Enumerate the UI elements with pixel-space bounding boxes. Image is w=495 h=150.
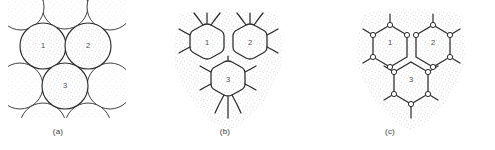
vertex-node-icon xyxy=(413,32,418,37)
vertex-node-icon xyxy=(430,22,435,27)
cell-number-a3: 3 xyxy=(63,81,67,90)
cell-number-c3: 3 xyxy=(409,75,413,84)
panel-label-b: (b) xyxy=(205,127,245,136)
cell-number-b1: 1 xyxy=(205,38,209,47)
vertex-node-icon xyxy=(391,91,396,96)
cell-number-b3: 3 xyxy=(226,75,230,84)
cell-number-c1: 1 xyxy=(388,38,392,47)
vertex-node-icon xyxy=(387,64,392,69)
vertex-node-icon xyxy=(370,54,375,59)
vertex-node-icon xyxy=(391,69,396,74)
vertex-node-icon xyxy=(408,101,413,106)
cell-number-b2: 2 xyxy=(248,38,252,47)
cell-number-a2: 2 xyxy=(86,41,90,50)
vertex-node-icon xyxy=(387,22,392,27)
vertex-node-icon xyxy=(447,54,452,59)
panel-b: 1 2 3 xyxy=(174,9,282,131)
cell-number-a1: 1 xyxy=(41,41,45,50)
vertex-node-icon xyxy=(370,32,375,37)
vertex-node-icon xyxy=(430,64,435,69)
vertex-node-icon xyxy=(404,32,409,37)
panel-label-a: (a) xyxy=(38,127,78,136)
vertex-node-icon xyxy=(425,91,430,96)
panel-c: 1 2 3 xyxy=(357,9,465,131)
cell-number-c2: 2 xyxy=(431,38,435,47)
vertex-node-icon xyxy=(425,69,430,74)
panel-label-c: (c) xyxy=(370,127,410,136)
vertex-node-icon xyxy=(447,32,452,37)
